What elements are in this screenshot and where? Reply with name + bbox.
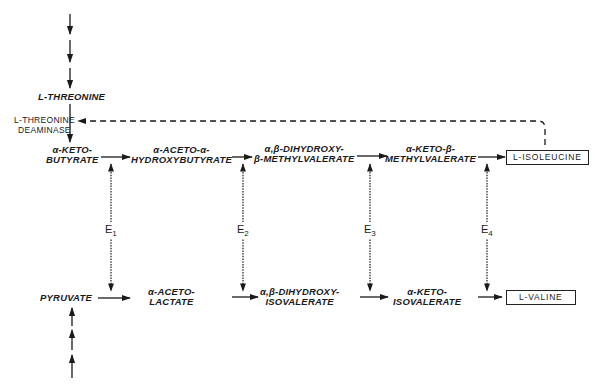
l-isoleucine-box: L-ISOLEUCINE bbox=[506, 150, 589, 165]
alpha-keto-beta-methylvalerate: α-KETO-β-METHYLVALERATE bbox=[385, 144, 476, 164]
pyruvate: PYRUVATE bbox=[40, 293, 92, 303]
deaminase-line-1: L-THREONINE bbox=[14, 115, 75, 125]
enzyme-e4: E4 bbox=[481, 222, 493, 239]
alpha-acetolactate: α-ACETO-LACTATE bbox=[148, 287, 195, 307]
dihydroxy-methylvalerate: α,β-DIHYDROXY-β-METHYLVALERATE bbox=[254, 144, 355, 164]
l-threonine-label: L-THREONINE bbox=[38, 92, 105, 102]
threonine-deaminase-label: L-THREONINE DEAMINASE bbox=[14, 115, 75, 135]
deaminase-line-2: DEAMINASE bbox=[14, 125, 75, 135]
alpha-aceto-alpha-hydroxybutyrate: α-ACETO-α-HYDROXYBUTYRATE bbox=[131, 145, 232, 165]
pathway-arrows bbox=[0, 0, 595, 388]
enzyme-e3: E3 bbox=[364, 222, 376, 239]
dihydroxy-isovalerate: α,β-DIHYDROXY-ISOVALERATE bbox=[260, 287, 339, 307]
feedback-dashed-line bbox=[78, 121, 545, 145]
enzyme-e2: E2 bbox=[237, 222, 249, 239]
alpha-ketobutyrate: α-KETO-BUTYRATE bbox=[46, 145, 99, 165]
enzyme-e1: E1 bbox=[105, 222, 117, 239]
l-valine-box: L-VALINE bbox=[506, 290, 576, 305]
alpha-ketoisovalerate: α-KETO-ISOVALERATE bbox=[393, 287, 461, 307]
